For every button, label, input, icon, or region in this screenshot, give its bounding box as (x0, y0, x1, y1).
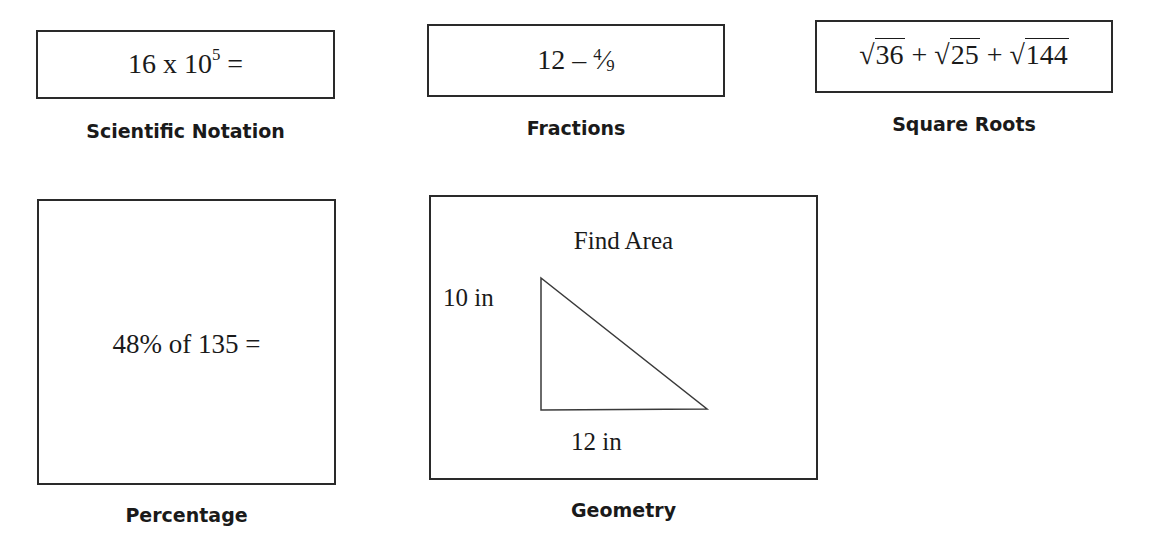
geometry-box: Find Area 10 in 12 in (429, 195, 818, 480)
scientific-notation-expression: 16 x 105 = (38, 48, 333, 80)
sqrt-term-1: √36 (859, 39, 904, 71)
geometry-base-label: 12 in (571, 428, 622, 456)
fractions-numerator: 4 (593, 45, 601, 64)
radicand-2: 25 (950, 38, 980, 70)
square-roots-box: √36 + √25 + √144 (815, 20, 1113, 93)
square-roots-label: Square Roots (815, 113, 1113, 135)
fractions-expression: 12 – 4⁄9 (429, 44, 723, 76)
sqrt-term-3: √144 (1009, 39, 1068, 71)
radical-icon: √ (934, 39, 949, 70)
percentage-expression: 48% of 135 = (39, 329, 334, 360)
fractions-box: 12 – 4⁄9 (427, 24, 725, 97)
plus-operator-2: + (987, 39, 1003, 70)
fractions-operator: – (572, 44, 586, 75)
square-roots-expression: √36 + √25 + √144 (817, 39, 1111, 71)
radicand-3: 144 (1025, 38, 1069, 70)
geometry-label: Geometry (429, 499, 818, 521)
percentage-box: 48% of 135 = (37, 199, 336, 485)
fractions-whole: 12 (537, 44, 565, 75)
scientific-notation-base: 16 x 10 (128, 48, 212, 79)
fractions-denominator: 9 (606, 56, 614, 75)
plus-operator-1: + (912, 39, 928, 70)
right-triangle-icon (429, 195, 818, 480)
sqrt-term-2: √25 (934, 39, 979, 71)
scientific-notation-label: Scientific Notation (36, 120, 335, 142)
radical-icon: √ (1009, 39, 1024, 70)
radicand-1: 36 (875, 38, 905, 70)
percentage-label: Percentage (37, 504, 336, 526)
fractions-label: Fractions (427, 117, 725, 139)
scientific-notation-box: 16 x 105 = (36, 30, 335, 99)
scientific-notation-suffix: = (220, 48, 243, 79)
radical-icon: √ (859, 39, 874, 70)
